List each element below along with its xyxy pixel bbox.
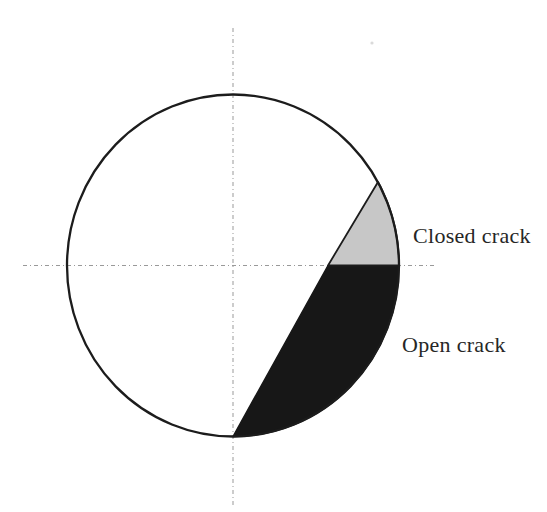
crack-state-diagram: Closed crack Open crack: [0, 0, 547, 512]
closed-crack-segment: [328, 182, 399, 266]
open-crack-label: Open crack: [402, 332, 506, 357]
print-speck: [370, 41, 373, 44]
open-crack-segment: [233, 266, 399, 437]
closed-crack-label: Closed crack: [413, 223, 531, 248]
